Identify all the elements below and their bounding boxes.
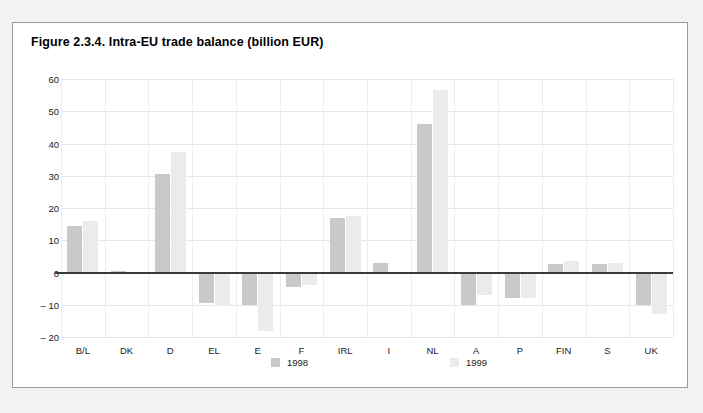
bar-uk-1999 (652, 273, 667, 315)
y-axis-tick-label: 0 (25, 267, 59, 278)
legend-swatch-1998 (271, 358, 280, 367)
y-axis-tick-label: 10 (25, 235, 59, 246)
legend-item-1998: 1998 (271, 357, 308, 368)
y-axis-tick-label: 40 (25, 138, 59, 149)
y-axis-tick-label: 30 (25, 170, 59, 181)
page-title: Figure 2.3.4. Intra-EU trade balance (bi… (31, 35, 324, 49)
y-axis-tick-label: – 20 (25, 332, 59, 343)
chart-plot-area: 6050403020100– 10– 20 B/LDKDELEFIRLINLAP… (61, 79, 673, 337)
bar-uk-1998 (636, 273, 651, 305)
y-axis-tick-label: 20 (25, 203, 59, 214)
figure-panel: Figure 2.3.4. Intra-EU trade balance (bi… (12, 22, 688, 388)
vertical-gridline (673, 79, 674, 337)
legend-item-1999: 1999 (450, 357, 487, 368)
y-axis-tick-label: 50 (25, 106, 59, 117)
y-axis-tick-label: – 10 (25, 299, 59, 310)
bar-group (61, 79, 673, 337)
y-axis-tick-label: 60 (25, 74, 59, 85)
gridline (61, 337, 673, 338)
zero-axis-line (55, 272, 673, 274)
legend-label-1999: 1999 (466, 357, 487, 368)
legend-swatch-1999 (450, 358, 459, 367)
chart-legend: 1998 1999 (13, 355, 689, 375)
legend-label-1998: 1998 (287, 357, 308, 368)
